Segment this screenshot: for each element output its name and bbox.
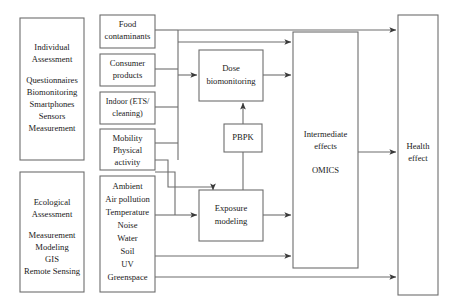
exposure-modeling-line2: modeling xyxy=(215,216,248,226)
diagram-canvas: Individual Assessment Questionnaires Bio… xyxy=(0,0,458,307)
individual-assessment-heading-line2: Assessment xyxy=(32,54,73,64)
intermediate-effects-line1: Intermediate xyxy=(304,129,348,139)
food-contaminants-line1: Food xyxy=(119,19,137,29)
ecological-assessment-item-3: Remote Sensing xyxy=(24,266,81,276)
ecological-assessment-item-2: GIS xyxy=(45,254,59,264)
consumer-products-line2: products xyxy=(113,70,143,80)
ambient-line-4: Water xyxy=(117,233,137,243)
ecological-assessment-item-0: Measurement xyxy=(29,230,76,240)
individual-assessment-item-2: Smartphones xyxy=(30,99,76,109)
ecological-assessment-heading-line2: Assessment xyxy=(32,209,73,219)
ambient-line-7: Greenspace xyxy=(107,272,147,282)
ecological-assessment-item-1: Modeling xyxy=(35,242,69,252)
flow-diagram: Individual Assessment Questionnaires Bio… xyxy=(0,0,458,307)
ambient-line-0: Ambient xyxy=(112,181,143,191)
mobility-line3: activity xyxy=(115,157,141,167)
ambient-line-3: Noise xyxy=(117,220,137,230)
mobility-line2: Physical xyxy=(113,145,143,155)
ambient-line-6: UV xyxy=(121,259,134,269)
ambient-line-5: Soil xyxy=(121,246,135,256)
ambient-line-1: Air pollution xyxy=(105,194,150,204)
ambient-bus-upper xyxy=(155,172,175,215)
individual-assessment-item-3: Sensors xyxy=(39,111,66,121)
individual-assessment-item-1: Biomonitoring xyxy=(27,87,78,97)
health-effect-line1: Health xyxy=(407,141,431,151)
individual-assessment-item-4: Measurement xyxy=(29,123,76,133)
health-effect-line2: effect xyxy=(408,153,428,163)
intermediate-effects-omics: OMICS xyxy=(312,165,339,175)
individual-assessment-heading-line1: Individual xyxy=(34,42,70,52)
mobility-line1: Mobility xyxy=(112,133,143,143)
food-contaminants-line2: contaminants xyxy=(105,31,151,41)
intermediate-effects-line2: effects xyxy=(314,141,337,151)
edge-mobility-elbow xyxy=(155,160,213,187)
pbpk-label: PBPK xyxy=(232,132,254,142)
ecological-assessment-heading-line1: Ecological xyxy=(34,197,71,207)
dose-biomonitoring-line1: Dose xyxy=(222,63,240,73)
indoor-line1: Indoor (ETS/ xyxy=(106,97,150,106)
consumer-products-line1: Consumer xyxy=(110,58,145,68)
dose-biomonitoring-line2: biomonitoring xyxy=(206,76,256,86)
individual-assessment-item-0: Questionnaires xyxy=(26,75,78,85)
indoor-line2: cleaning) xyxy=(112,109,143,118)
exposure-modeling-line1: Exposure xyxy=(215,203,248,213)
ambient-line-2: Temperature xyxy=(106,207,149,217)
